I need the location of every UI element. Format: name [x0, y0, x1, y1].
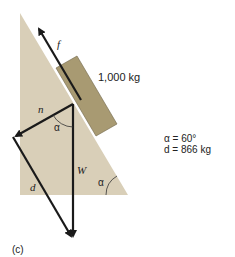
d-label: d: [30, 181, 36, 193]
weight-label: W: [77, 164, 86, 176]
alpha-value: α = 60°: [164, 133, 196, 144]
panel-label: (c): [12, 244, 24, 255]
angle-label-base: α: [98, 177, 104, 188]
normal-label: n: [38, 103, 44, 115]
free-body-diagram: [0, 0, 235, 257]
d-value: d = 866 kg: [164, 144, 211, 155]
angle-label-top: α: [54, 122, 60, 133]
mass-label: 1,000 kg: [98, 71, 140, 83]
friction-label: f: [57, 38, 60, 50]
